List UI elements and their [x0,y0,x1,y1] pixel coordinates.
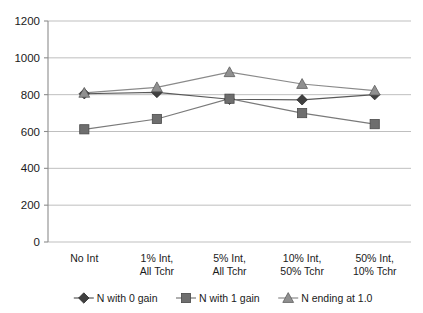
y-tick-label: 600 [21,126,40,138]
y-tick-label: 800 [21,89,40,101]
marker-triangle [224,67,235,77]
x-tick-label: All Tchr [212,265,247,277]
line-chart: 020040060080010001200 No Int1% Int,All T… [0,0,423,313]
marker-square [80,125,89,134]
x-tick-labels: No Int1% Int,All Tchr5% Int,All Tchr10% … [70,252,397,277]
legend-label: N with 0 gain [97,292,158,304]
marker-square [225,94,234,103]
x-tick-label: 1% Int, [141,252,174,264]
y-tick-label: 1000 [14,52,40,64]
marker-diamond [297,95,307,105]
marker-square [152,114,161,123]
legend-label: N ending at 1.0 [301,292,372,304]
x-tick-label: All Tchr [140,265,175,277]
legend-label: N with 1 gain [199,292,260,304]
y-axis [44,21,48,242]
x-tick-label: No Int [70,252,98,264]
y-tick-label: 400 [21,162,40,174]
y-tick-label: 0 [34,236,40,248]
x-tick-label: 50% Tchr [280,265,324,277]
chart-container: 020040060080010001200 No Int1% Int,All T… [0,0,423,313]
x-tick-label: 50% Int, [355,252,394,264]
y-tick-labels: 020040060080010001200 [14,15,40,248]
x-tick-label: 10% Tchr [353,265,397,277]
legend-marker-square [181,293,190,302]
legend-marker-diamond [79,293,89,303]
x-tick-label: 5% Int, [213,252,246,264]
marker-square [370,120,379,129]
x-tick-label: 10% Int, [283,252,322,264]
chart-legend: N with 0 gainN with 1 gainN ending at 1.… [74,292,373,304]
y-tick-label: 200 [21,199,40,211]
marker-square [298,108,307,117]
y-tick-label: 1200 [14,15,40,27]
gridlines [48,21,411,242]
